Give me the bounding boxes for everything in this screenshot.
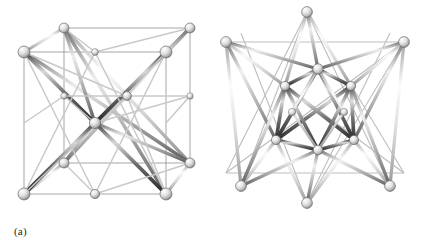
figure-root: (a) bbox=[0, 0, 428, 248]
figure-panel-a: (a) bbox=[0, 0, 214, 248]
figure-panel-b: (b) bbox=[214, 0, 428, 248]
stellated-octahedron-drawing bbox=[214, 0, 428, 215]
cube-polyhedron-drawing bbox=[0, 0, 214, 215]
panel-a-label: (a) bbox=[14, 226, 27, 237]
panel-b-canvas bbox=[214, 0, 428, 215]
panel-a-canvas bbox=[0, 0, 214, 215]
